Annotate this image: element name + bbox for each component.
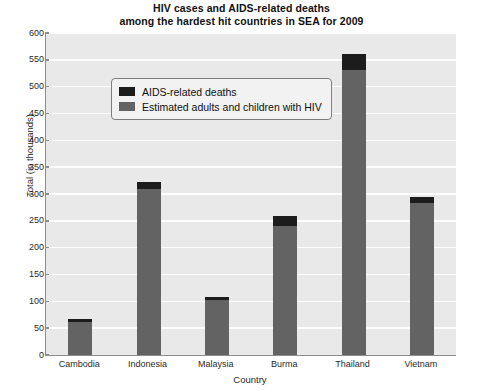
bar-segment-aids-deaths[interactable] <box>273 216 297 226</box>
y-axis-tick-mark <box>45 140 49 142</box>
legend-item-aids-related-deaths: AIDS-related deaths <box>119 84 322 99</box>
bar-segment-aids-deaths[interactable] <box>137 182 161 188</box>
y-axis-tick-label: 350 <box>0 163 44 172</box>
y-axis-tick-label: 150 <box>0 270 44 279</box>
y-axis-tick-mark <box>45 86 49 88</box>
chart-title: HIV cases and AIDS-related deaths among … <box>0 2 483 27</box>
chart-title-line-2: among the hardest hit countries in SEA f… <box>0 15 483 28</box>
y-axis-tick-label: 200 <box>0 243 44 252</box>
legend-item-estimated-adults-and-children-with-hiv: Estimated adults and children with HIV <box>119 99 322 114</box>
x-axis-title: Country <box>45 374 455 385</box>
y-axis-tick-mark <box>45 274 49 276</box>
legend-swatch-aids-related-deaths <box>119 87 135 96</box>
bar-chart: HIV cases and AIDS-related deaths among … <box>0 0 483 391</box>
y-axis-tick-label: 250 <box>0 216 44 225</box>
bar-segment-hiv-estimate[interactable] <box>342 70 366 356</box>
y-axis-tick-mark <box>45 247 49 249</box>
y-axis-tick-label: 500 <box>0 82 44 91</box>
y-axis-tick-label: 100 <box>0 297 44 306</box>
y-axis-tick-mark <box>45 59 49 61</box>
y-axis-tick-label: 50 <box>0 324 44 333</box>
legend-label-estimated-adults-and-children-with-hiv: Estimated adults and children with HIV <box>142 101 322 113</box>
y-axis-tick-label: 0 <box>0 351 44 360</box>
y-axis-tick-label: 600 <box>0 29 44 38</box>
y-axis-tick-label: 550 <box>0 55 44 64</box>
y-axis-tick-mark <box>45 220 49 222</box>
legend: AIDS-related deaths Estimated adults and… <box>111 78 332 120</box>
plot-area: AIDS-related deaths Estimated adults and… <box>45 33 456 356</box>
y-axis-tick-mark <box>45 301 49 303</box>
bar-segment-hiv-estimate[interactable] <box>137 189 161 355</box>
y-axis-tick-label: 300 <box>0 190 44 199</box>
bar-segment-hiv-estimate[interactable] <box>273 226 297 355</box>
chart-title-line-1: HIV cases and AIDS-related deaths <box>153 2 330 14</box>
y-axis-tick-label: 450 <box>0 109 44 118</box>
x-axis-tick-label: Vietnam <box>381 359 461 369</box>
y-axis-tick-mark <box>45 354 49 356</box>
legend-label-aids-related-deaths: AIDS-related deaths <box>142 86 237 98</box>
bar-segment-hiv-estimate[interactable] <box>68 322 92 355</box>
y-axis-tick-label: 400 <box>0 136 44 145</box>
y-axis-tick-mark <box>45 166 49 168</box>
y-axis-tick-mark <box>45 327 49 329</box>
bar-segment-aids-deaths[interactable] <box>342 54 366 69</box>
bar-segment-hiv-estimate[interactable] <box>205 300 229 355</box>
y-axis-tick-mark <box>45 193 49 195</box>
bar-segment-aids-deaths[interactable] <box>68 319 92 322</box>
legend-swatch-estimated-adults-and-children-with-hiv <box>119 102 135 111</box>
bar-segment-aids-deaths[interactable] <box>410 197 434 203</box>
y-axis-title: Total (in thousands) <box>24 76 35 236</box>
y-axis-tick-mark <box>45 113 49 115</box>
bar-segment-aids-deaths[interactable] <box>205 297 229 300</box>
y-axis-tick-mark <box>45 32 49 34</box>
bar-segment-hiv-estimate[interactable] <box>410 203 434 355</box>
